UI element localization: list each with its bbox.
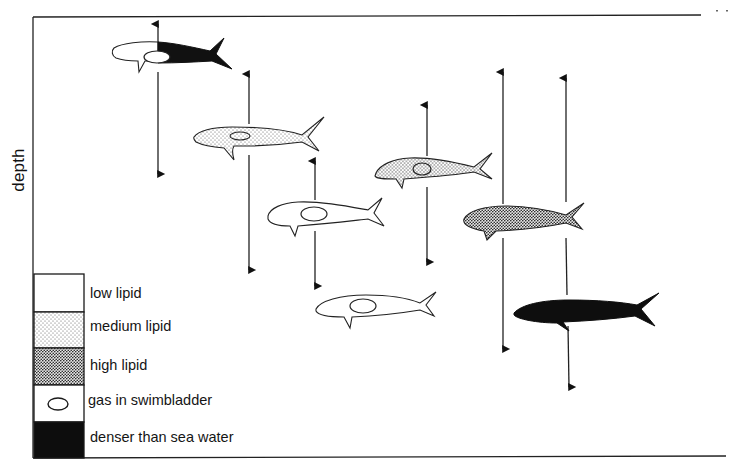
fish-2-medium-lipid: [194, 117, 324, 160]
y-axis-label-text: depth: [9, 148, 29, 192]
arrow-fish-7-down: [568, 326, 569, 387]
arrow-fish-7-mid: [566, 238, 567, 295]
fish-3-low-lipid: [268, 198, 384, 236]
legend-label-high-lipid: high lipid: [90, 357, 147, 373]
y-axis-label: depth: [4, 140, 34, 200]
fish-5-high-lipid: [464, 203, 584, 240]
legend-label-dense: denser than sea water: [90, 429, 233, 445]
corner-marks: [716, 10, 728, 12]
legend-label-medium-lipid: medium lipid: [90, 318, 171, 334]
legend-swatch-high-lipid: [34, 348, 84, 385]
legend-swatch-low-lipid: [34, 274, 84, 312]
legend-swatches: [34, 274, 84, 458]
legend-swatch-gas: [34, 385, 84, 422]
fish-1-mixed: [112, 38, 232, 72]
legend-swatch-medium-lipid: [34, 312, 84, 348]
fish-7-dense: [514, 293, 659, 331]
fish-4-medium-lipid: [375, 153, 492, 188]
legend-label-gas: gas in swimbladder: [88, 392, 212, 408]
legend-swatch-dense: [34, 422, 84, 458]
legend-label-low-lipid: low lipid: [90, 285, 142, 301]
swimbladder-icon: [144, 51, 170, 63]
fish-6-low-lipid: [316, 292, 436, 328]
